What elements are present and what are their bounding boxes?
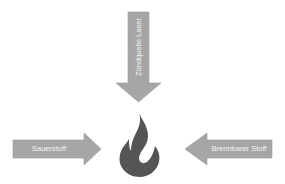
diagram-graphics bbox=[0, 0, 285, 184]
flame-icon bbox=[120, 113, 160, 177]
label-fuel: Brennbarer Stoff bbox=[205, 144, 273, 153]
label-oxygen: Sauerstoff bbox=[14, 144, 84, 153]
label-ignition-source: Zündquelle Laser bbox=[134, 13, 143, 81]
fire-triangle-diagram: Zündquelle Laser Sauerstoff Brennbarer S… bbox=[0, 0, 285, 184]
